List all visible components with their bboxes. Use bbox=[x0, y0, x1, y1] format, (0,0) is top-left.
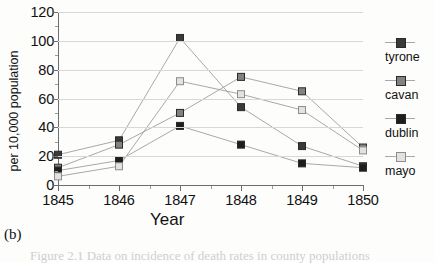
x-axis-minor-tick bbox=[150, 186, 151, 189]
legend-item-cavan[interactable]: cavan bbox=[385, 74, 435, 112]
series-line-tyrone bbox=[58, 38, 363, 166]
y-axis-minor-tick bbox=[55, 55, 58, 56]
chart-legend: tyronecavandublinmayo bbox=[385, 36, 435, 188]
y-axis-tick-label: 100 bbox=[30, 33, 54, 49]
data-point-tyrone-1848 bbox=[238, 104, 245, 111]
x-axis-minor-tick bbox=[89, 186, 90, 189]
x-axis-title: Year bbox=[150, 210, 184, 230]
y-axis-tick bbox=[53, 127, 58, 128]
legend-label-mayo: mayo bbox=[385, 164, 416, 178]
x-axis-tick bbox=[363, 186, 364, 191]
y-axis-minor-tick bbox=[55, 113, 58, 114]
y-axis-tick-labels: 020406080100120 bbox=[0, 12, 54, 186]
y-axis-tick bbox=[53, 70, 58, 71]
x-axis-tick-label: 1848 bbox=[225, 192, 256, 208]
data-point-mayo-1847 bbox=[177, 78, 184, 85]
x-axis-minor-tick bbox=[211, 186, 212, 189]
series-line-cavan bbox=[58, 77, 363, 168]
y-gridline bbox=[58, 70, 363, 71]
data-point-cavan-1847 bbox=[177, 109, 184, 116]
legend-item-dublin[interactable]: dublin bbox=[385, 112, 435, 150]
legend-label-tyrone: tyrone bbox=[385, 50, 420, 64]
data-point-mayo-1850 bbox=[360, 147, 367, 154]
y-axis-tick-label: 60 bbox=[38, 91, 54, 107]
series-line-mayo bbox=[58, 81, 363, 176]
y-gridline bbox=[58, 127, 363, 128]
x-axis-tick bbox=[180, 186, 181, 191]
x-axis-tick-label: 1845 bbox=[42, 192, 73, 208]
x-axis-tick-label: 1847 bbox=[164, 192, 195, 208]
x-axis-minor-tick bbox=[333, 186, 334, 189]
y-gridline bbox=[58, 156, 363, 157]
legend-marker-cavan bbox=[396, 76, 406, 86]
y-axis-tick bbox=[53, 156, 58, 157]
x-axis-tick-label: 1849 bbox=[286, 192, 317, 208]
y-gridline bbox=[58, 12, 363, 13]
data-point-mayo-1848 bbox=[238, 91, 245, 98]
y-axis-tick-label: 20 bbox=[38, 148, 54, 164]
panel-label: (b) bbox=[4, 226, 22, 243]
x-axis-tick bbox=[119, 186, 120, 191]
legend-label-cavan: cavan bbox=[385, 88, 418, 102]
y-axis-tick bbox=[53, 99, 58, 100]
legend-label-dublin: dublin bbox=[385, 126, 418, 140]
data-point-cavan-1846 bbox=[116, 141, 123, 148]
legend-marker-dublin bbox=[396, 114, 406, 124]
y-axis-minor-tick bbox=[55, 142, 58, 143]
y-axis-minor-tick bbox=[55, 26, 58, 27]
x-axis-tick-label: 1846 bbox=[103, 192, 134, 208]
y-axis-tick bbox=[53, 41, 58, 42]
data-point-dublin-1847 bbox=[177, 122, 184, 129]
data-point-dublin-1849 bbox=[299, 160, 306, 167]
x-axis-tick bbox=[58, 186, 59, 191]
legend-marker-tyrone bbox=[396, 38, 406, 48]
x-axis-tick bbox=[241, 186, 242, 191]
figure-caption: Figure 2.1 Data on incidence of death ra… bbox=[30, 248, 410, 264]
y-axis-tick-label: 40 bbox=[38, 119, 54, 135]
legend-item-tyrone[interactable]: tyrone bbox=[385, 36, 435, 74]
data-point-cavan-1849 bbox=[299, 88, 306, 95]
y-axis-minor-tick bbox=[55, 171, 58, 172]
y-axis-minor-tick bbox=[55, 84, 58, 85]
data-point-mayo-1845 bbox=[55, 173, 62, 180]
x-axis-minor-tick bbox=[272, 186, 273, 189]
y-axis-tick bbox=[53, 12, 58, 13]
x-axis-tick-labels: 184518461847184818491850 bbox=[0, 192, 435, 212]
y-gridline bbox=[58, 99, 363, 100]
y-axis-tick-label: 80 bbox=[38, 62, 54, 78]
data-point-mayo-1849 bbox=[299, 107, 306, 114]
data-point-dublin-1848 bbox=[238, 141, 245, 148]
legend-marker-mayo bbox=[396, 152, 406, 162]
data-point-tyrone-1845 bbox=[55, 151, 62, 158]
plot-area bbox=[58, 12, 363, 185]
legend-item-mayo[interactable]: mayo bbox=[385, 150, 435, 188]
data-point-tyrone-1849 bbox=[299, 143, 306, 150]
y-gridline bbox=[58, 41, 363, 42]
x-axis-tick-label: 1850 bbox=[347, 192, 378, 208]
y-axis-tick-label: 120 bbox=[30, 4, 54, 20]
x-axis-tick bbox=[302, 186, 303, 191]
data-point-mayo-1846 bbox=[116, 163, 123, 170]
series-line-dublin bbox=[58, 126, 363, 171]
data-point-dublin-1850 bbox=[360, 164, 367, 171]
data-point-cavan-1848 bbox=[238, 73, 245, 80]
